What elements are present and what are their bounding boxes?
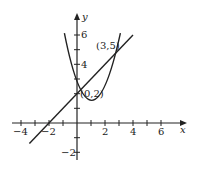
x-tick-label: 4 [130, 126, 136, 137]
y-tick-label: 4 [81, 59, 87, 70]
x-tick-label: 6 [158, 126, 164, 137]
x-tick-label: −4 [13, 126, 28, 137]
graph-canvas: −4 −2 2 4 6 x 6 4 −2 y (0,2) (3,5) [0, 0, 198, 169]
x-tick-label: −2 [41, 126, 56, 137]
point-label-3-5: (3,5) [96, 40, 120, 51]
y-axis-arrow-icon [74, 13, 80, 20]
x-axis-label: x [180, 124, 186, 135]
x-tick-label: 2 [102, 126, 108, 137]
y-axis-label: y [81, 11, 88, 22]
y-tick-label: 6 [81, 29, 87, 40]
point-label-0-2: (0,2) [80, 88, 104, 99]
y-tick-label: −2 [61, 147, 76, 158]
